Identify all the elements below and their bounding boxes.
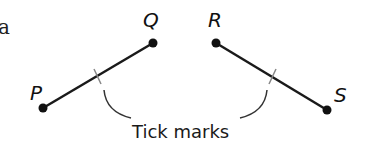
label-s: S [334,83,347,107]
label-q: Q [143,8,159,32]
segment-pq: P Q [30,8,159,113]
tick-marks-caption: Tick marks [131,121,229,142]
edge-text-fragment: a [0,15,10,39]
point-r [212,39,221,48]
point-s [323,106,332,115]
annotation-curve-left [104,90,131,118]
point-q [149,39,158,48]
annotation-curve-right [240,90,267,118]
segment-rs: R S [208,8,347,115]
label-r: R [208,8,222,32]
label-p: P [30,81,43,105]
congruent-segments-diagram: a P Q R S Tick marks [0,0,369,156]
